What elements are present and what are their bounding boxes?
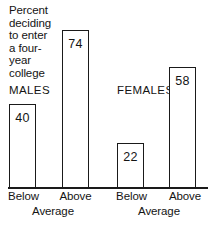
chart-title-line-2: deciding	[9, 17, 67, 30]
axis-baseline	[8, 187, 208, 189]
bar-value-males-below-average: 40	[10, 111, 35, 125]
bar-value-females-below-average: 22	[118, 150, 143, 164]
bar-females-below-average: 22	[117, 143, 144, 188]
chart-title-line-3: to enter	[9, 29, 67, 42]
tick-label-females-below: Below	[108, 190, 155, 202]
tick-label-males-above: Above	[52, 190, 99, 202]
tick-label-females-average: Average	[114, 205, 204, 217]
tick-label-males-average: Average	[10, 205, 96, 217]
bar-chart: Percent deciding to enter a four- year c…	[0, 0, 216, 226]
tick-label-males-below: Below	[0, 190, 47, 202]
chart-title-line-5: year	[9, 54, 67, 67]
chart-title-line-6: college	[9, 67, 67, 80]
bar-females-above-average: 58	[169, 67, 196, 188]
chart-title: Percent deciding to enter a four- year c…	[9, 4, 67, 80]
bar-males-below-average: 40	[9, 104, 36, 188]
group-label-females: FEMALES	[117, 84, 173, 96]
chart-title-line-1: Percent	[9, 4, 67, 17]
bar-value-males-above-average: 74	[63, 37, 88, 51]
chart-title-line-4: a four-	[9, 42, 67, 55]
tick-label-females-above: Above	[160, 190, 210, 202]
bar-value-females-above-average: 58	[170, 74, 195, 88]
group-label-males: MALES	[9, 84, 50, 96]
bar-males-above-average: 74	[62, 30, 89, 188]
